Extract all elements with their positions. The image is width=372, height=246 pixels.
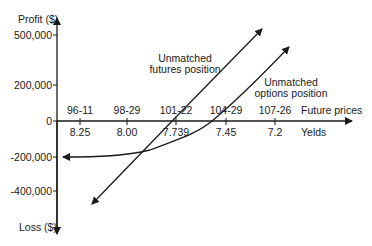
y-tick-neg200000: -200,000 xyxy=(11,151,53,163)
futures-annotation-line2: futures position xyxy=(149,63,220,75)
options-annotation-line2: options position xyxy=(255,87,328,99)
loss-axis-label: Loss ($) xyxy=(19,221,57,233)
x-price-tick-5: 107-26 xyxy=(259,104,292,116)
y-axis xyxy=(53,18,57,234)
x-price-tick-1: 96-11 xyxy=(67,104,93,116)
y-tick-neg400000: -400,000 xyxy=(11,185,53,197)
x-price-tick-2: 98-29 xyxy=(114,104,141,116)
x-yield-tick-2: 8.00 xyxy=(117,126,138,138)
yields-label: Yelds xyxy=(301,126,326,138)
profit-axis-label: Profit ($) xyxy=(18,13,58,25)
y-tick-500000: 500,000 xyxy=(14,29,52,41)
x-axis xyxy=(57,118,352,125)
x-yield-tick-1: 8.25 xyxy=(70,126,91,138)
y-tick-200000: 200,000 xyxy=(14,79,52,91)
x-price-tick-4: 104-29 xyxy=(210,104,243,116)
x-yield-tick-4: 7.45 xyxy=(216,126,237,138)
profit-loss-chart: Profit ($) 500,000 200,000 0 -200,000 -4… xyxy=(0,0,372,246)
future-prices-label: Future prices xyxy=(301,104,362,116)
y-tick-0: 0 xyxy=(46,115,52,127)
options-position-curve-left xyxy=(63,150,150,157)
x-yield-tick-5: 7.2 xyxy=(268,126,283,138)
